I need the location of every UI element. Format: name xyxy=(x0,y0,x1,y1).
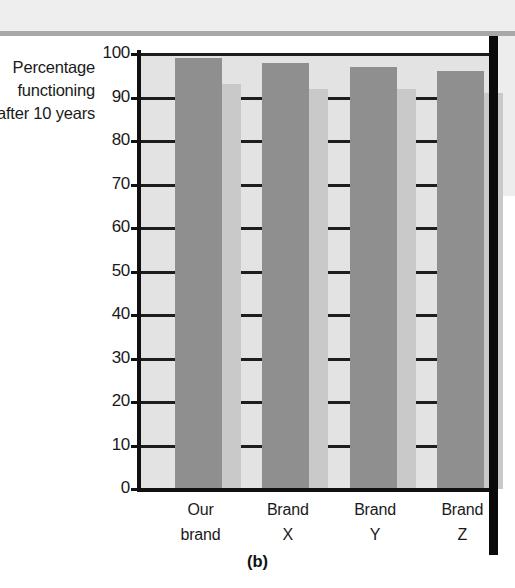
y-tick-0 xyxy=(131,488,139,491)
y-tick-label-70: 70 xyxy=(84,174,130,194)
x-tick-label-0-line-0: Our xyxy=(151,497,251,522)
y-tick-label-10: 10 xyxy=(84,435,130,455)
y-tick-label-20: 20 xyxy=(84,391,130,411)
x-axis-spine xyxy=(137,488,492,492)
y-tick-label-50: 50 xyxy=(84,261,130,281)
x-tick-label-1-line-0: Brand xyxy=(238,497,338,522)
y-tick-50 xyxy=(131,271,139,274)
plot-area xyxy=(140,54,489,489)
x-tick-label-1-line-1: X xyxy=(238,522,338,547)
x-tick-label-2-line-1: Y xyxy=(325,522,425,547)
y-tick-label-40: 40 xyxy=(84,304,130,324)
x-tick-label-0: Ourbrand xyxy=(151,497,251,547)
figure-panel-b: Percentage functioning after 10 years 01… xyxy=(0,0,515,588)
y-tick-30 xyxy=(131,358,139,361)
bar-0[interactable] xyxy=(175,58,222,489)
x-tick-label-3: BrandZ xyxy=(412,497,512,547)
y-tick-70 xyxy=(131,184,139,187)
y-tick-label-30: 30 xyxy=(84,348,130,368)
x-tick-label-3-line-1: Z xyxy=(412,522,512,547)
y-tick-label-80: 80 xyxy=(84,130,130,150)
y-tick-60 xyxy=(131,227,139,230)
y-tick-label-90: 90 xyxy=(84,87,130,107)
y-tick-90 xyxy=(131,97,139,100)
page-top-band xyxy=(0,0,515,31)
y-tick-100 xyxy=(131,53,139,56)
bar-2[interactable] xyxy=(350,67,397,489)
x-tick-label-2: BrandY xyxy=(325,497,425,547)
y-axis-tick-labels: 0102030405060708090100 xyxy=(80,0,130,588)
y-tick-10 xyxy=(131,445,139,448)
x-tick-label-2-line-0: Brand xyxy=(325,497,425,522)
figure-caption: (b) xyxy=(0,552,515,571)
bar-1[interactable] xyxy=(262,63,309,489)
y-tick-40 xyxy=(131,314,139,317)
gridline-100 xyxy=(140,53,489,56)
y-tick-20 xyxy=(131,401,139,404)
page-gutter-rule xyxy=(489,36,498,555)
y-tick-label-60: 60 xyxy=(84,217,130,237)
x-tick-label-1: BrandX xyxy=(238,497,338,547)
y-tick-80 xyxy=(131,140,139,143)
y-tick-label-0: 0 xyxy=(84,478,130,498)
y-tick-label-100: 100 xyxy=(84,43,130,63)
x-tick-label-3-line-0: Brand xyxy=(412,497,512,522)
x-tick-label-0-line-1: brand xyxy=(151,522,251,547)
bar-3[interactable] xyxy=(437,71,484,489)
page-top-rule xyxy=(0,31,515,36)
